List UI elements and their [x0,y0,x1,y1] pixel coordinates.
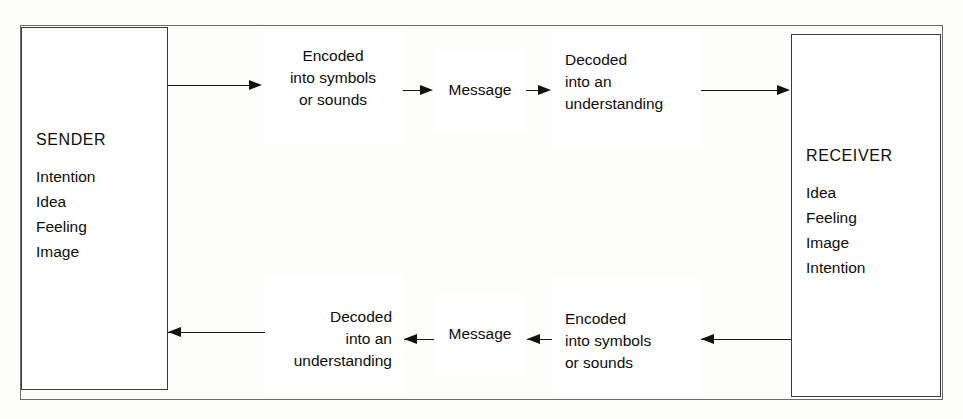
sender-attribute: Image [36,239,161,264]
receiver-attribute: Feeling [806,205,934,230]
receiver-attributes: Idea Feeling Image Intention [806,180,934,280]
sender-content: SENDER Intention Idea Feeling Image [36,131,161,264]
receiver-attribute: Idea [806,180,934,205]
connector-decode-to-receiver [701,90,778,91]
arrowhead-decode-to-sender [168,327,181,337]
arrowhead-receiver-to-encode [701,334,714,344]
arrowhead-encode-to-message [420,85,433,95]
receiver-content: RECEIVER Idea Feeling Image Intention [806,147,934,280]
receiver-title: RECEIVER [806,147,934,165]
receiver-attribute: Image [806,230,934,255]
sender-attributes: Intention Idea Feeling Image [36,164,161,264]
connector-sender-to-encode [168,85,250,86]
sender-box: SENDER Intention Idea Feeling Image [21,27,168,390]
message-box-forward: Message [434,50,526,131]
receiver-attribute: Intention [806,255,934,280]
encode-box-feedback: Encoded into symbols or sounds [552,278,701,394]
encode-box-feedback-label: Encoded into symbols or sounds [552,308,701,374]
arrowhead-encode-to-message-feedback [527,334,540,344]
arrowhead-decode-to-receiver [777,85,790,95]
connector-decode-to-sender [168,332,265,333]
message-box-forward-label: Message [434,79,526,101]
encode-box-forward: Encoded into symbols or sounds [263,29,403,143]
encode-box-forward-label: Encoded into symbols or sounds [263,45,403,111]
decode-box-forward-label: Decoded into an understanding [552,49,701,115]
arrowhead-message-to-decode [538,85,551,95]
message-box-feedback-label: Message [434,323,526,345]
arrowhead-message-to-decode-feedback [404,334,417,344]
decode-box-forward: Decoded into an understanding [552,33,701,148]
diagram-canvas: SENDER Intention Idea Feeling Image RECE… [0,0,963,419]
sender-attribute: Idea [36,189,161,214]
arrowhead-sender-to-encode [249,80,262,90]
sender-attribute: Feeling [36,214,161,239]
receiver-box: RECEIVER Idea Feeling Image Intention [791,34,941,397]
sender-attribute: Intention [36,164,161,189]
connector-receiver-to-encode [701,339,791,340]
decode-box-feedback: Decoded into an understanding [265,276,404,393]
connector-encode-to-message [403,90,421,91]
sender-title: SENDER [36,131,161,149]
decode-box-feedback-label: Decoded into an understanding [265,306,404,372]
message-box-feedback: Message [434,294,526,375]
